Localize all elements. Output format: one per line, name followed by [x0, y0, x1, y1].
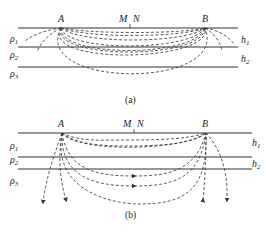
- panel-b-caption: (b): [125, 210, 136, 221]
- h2-label: h2: [241, 53, 250, 66]
- svg-text:h1: h1: [252, 137, 261, 150]
- electrode-a-label: A: [57, 13, 65, 24]
- rho1-label: ρ1: [9, 33, 18, 46]
- electrode-m-label: M: [118, 13, 128, 24]
- electrode-b-label: B: [202, 118, 208, 129]
- svg-text:ρ2: ρ2: [9, 154, 19, 167]
- electrode-n-label: N: [136, 118, 145, 129]
- h1-label: h1: [252, 137, 261, 150]
- svg-text:h2: h2: [252, 158, 261, 171]
- svg-text:h1: h1: [241, 34, 250, 47]
- h2-label: h2: [252, 158, 261, 171]
- panel-a: A M N B ρ1 ρ2 ρ3 h1 h2: [9, 13, 250, 106]
- rho2-label: ρ2: [9, 49, 19, 62]
- svg-text:ρ3: ρ3: [9, 68, 19, 81]
- electrode-current-flow-diagram: A M N B ρ1 ρ2 ρ3 h1 h2: [0, 0, 266, 234]
- electrode-m-label: M: [122, 118, 132, 129]
- electrode-n-label: N: [132, 13, 141, 24]
- electrode-b-label: B: [202, 13, 208, 24]
- electrode-a-label: A: [57, 118, 65, 129]
- svg-text:ρ1: ρ1: [9, 33, 18, 46]
- svg-text:ρ2: ρ2: [9, 49, 19, 62]
- rho3-label: ρ3: [9, 175, 19, 188]
- panel-b: A M N B ρ1 ρ2 ρ3 h1 h2: [9, 118, 261, 221]
- rho3-label: ρ3: [9, 68, 19, 81]
- svg-text:h2: h2: [241, 53, 250, 66]
- rho1-label: ρ1: [9, 140, 18, 153]
- panel-a-caption: (a): [125, 95, 136, 106]
- rho2-label: ρ2: [9, 154, 19, 167]
- svg-text:ρ3: ρ3: [9, 175, 19, 188]
- h1-label: h1: [241, 34, 250, 47]
- svg-text:ρ1: ρ1: [9, 140, 18, 153]
